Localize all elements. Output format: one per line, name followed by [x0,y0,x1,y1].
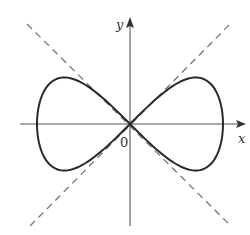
figure-eight-diagram: x y 0 [0,0,250,235]
origin-label: 0 [120,135,128,150]
x-axis-label: x [238,131,246,146]
y-axis-label: y [115,17,124,32]
